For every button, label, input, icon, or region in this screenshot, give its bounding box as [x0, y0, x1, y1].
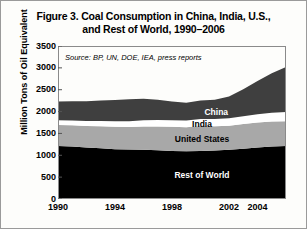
x-tick-label: 1990	[38, 202, 78, 212]
x-tick-label: 1994	[95, 202, 135, 212]
stacked-area-chart	[58, 46, 286, 199]
series-label-united-states: United States	[175, 134, 229, 144]
source-note: Source: BP, UN, DOE, IEA, press reports	[65, 53, 202, 62]
y-tick-label: 2500	[22, 85, 56, 94]
y-tick-label: 500	[22, 173, 56, 182]
x-axis-ticks: 19901994199820022004	[58, 202, 286, 216]
x-tick-label: 1998	[152, 202, 192, 212]
figure-title-line-1: Figure 3. Coal Consumption in China, Ind…	[36, 10, 270, 22]
y-tick-label: 1000	[22, 151, 56, 160]
figure-container: Figure 3. Coal Consumption in China, Ind…	[0, 0, 307, 229]
plot-area: ChinaIndiaUnited StatesRest of World	[58, 46, 286, 199]
y-tick-label: 2000	[22, 107, 56, 116]
area-series-group	[58, 67, 286, 199]
series-label-india: India	[192, 119, 212, 129]
figure-title-line-2: and Rest of World, 1990–2006	[82, 23, 224, 35]
area-rest-of-world	[58, 146, 286, 199]
x-tick-label: 2004	[238, 202, 278, 212]
y-tick-label: 3000	[22, 63, 56, 72]
y-axis-ticks: 0500100015002000250030003500	[20, 46, 56, 199]
series-label-rest-of-world: Rest of World	[174, 170, 229, 180]
figure-title: Figure 3. Coal Consumption in China, Ind…	[1, 10, 306, 35]
series-label-china: China	[204, 107, 228, 117]
y-tick-label: 1500	[22, 129, 56, 138]
y-tick-label: 3500	[22, 42, 56, 51]
area-china	[58, 67, 286, 121]
